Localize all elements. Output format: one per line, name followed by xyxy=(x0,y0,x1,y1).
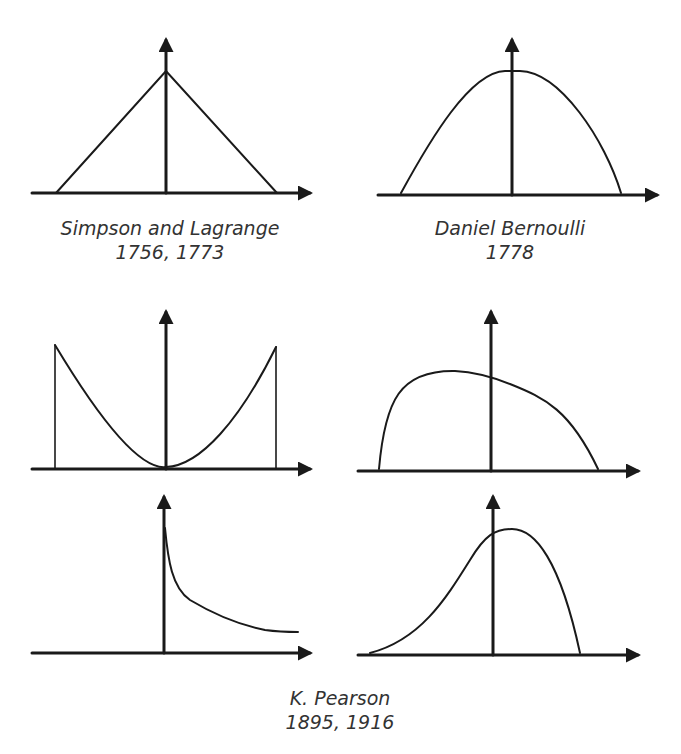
caption-years: 1895, 1916 xyxy=(220,710,460,734)
panel-simpson-lagrange xyxy=(32,40,310,193)
panel-pearson-left-tail xyxy=(358,497,638,655)
caption-pearson: K. Pearson 1895, 1916 xyxy=(220,686,460,734)
j-shaped-curve xyxy=(165,528,298,632)
caption-name: Daniel Bernoulli xyxy=(390,216,630,240)
distribution-shapes-diagram xyxy=(0,0,681,754)
caption-years: 1778 xyxy=(390,240,630,264)
caption-name: K. Pearson xyxy=(220,686,460,710)
left-tail-curve xyxy=(370,529,580,653)
caption-name: Simpson and Lagrange xyxy=(40,216,300,240)
caption-bernoulli: Daniel Bernoulli 1778 xyxy=(390,216,630,264)
caption-years: 1756, 1773 xyxy=(40,240,300,264)
panel-pearson-u xyxy=(32,312,310,469)
panel-pearson-skew xyxy=(358,312,638,471)
skewed-hump-curve xyxy=(379,371,598,469)
panel-pearson-j xyxy=(32,497,310,653)
panel-bernoulli xyxy=(378,40,657,195)
caption-simpson-lagrange: Simpson and Lagrange 1756, 1773 xyxy=(40,216,300,264)
